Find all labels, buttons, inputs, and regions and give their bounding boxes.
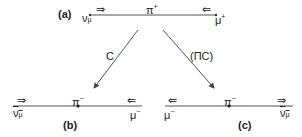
pion-charge: − — [232, 95, 236, 102]
muon-charge: − — [170, 108, 174, 115]
antineutrino-label-c: νμ — [280, 108, 290, 119]
neutrino-subscript: μ — [286, 111, 290, 118]
diagram-lines — [0, 0, 302, 137]
antineutrino-label-b: νμ — [13, 108, 23, 119]
pion-minus-label-b: π− — [72, 95, 84, 108]
spin-arrow-right-b: ⇒ — [17, 95, 26, 106]
neutrino-subscript: μ — [88, 16, 92, 23]
pion-symbol: π — [146, 4, 154, 16]
pc-transform-label: (ΠC) — [190, 51, 213, 62]
pion-minus-label-c: π− — [224, 95, 236, 108]
spin-arrow-left-c: ⇐ — [168, 95, 177, 106]
c-transform-arrow — [94, 30, 138, 88]
c-transform-label: C — [106, 51, 114, 62]
muon-charge: − — [136, 108, 140, 115]
spin-arrow-left-a: ⇐ — [202, 4, 211, 15]
panel-b-label: (b) — [63, 120, 77, 131]
muon-minus-label-c: μ− — [164, 108, 174, 121]
pion-symbol: π — [224, 96, 232, 108]
pion-charge: − — [80, 95, 84, 102]
panel-c-label: (c) — [238, 120, 251, 131]
spin-arrow-right-c: ⇒ — [277, 95, 286, 106]
muon-plus-label: μ+ — [215, 13, 225, 26]
muon-charge: + — [221, 13, 225, 20]
spin-arrow-right-a: ⇒ — [96, 4, 105, 15]
neutrino-subscript: μ — [19, 111, 23, 118]
neutrino-label-a: νμ — [82, 13, 92, 24]
muon-minus-label-b: μ− — [130, 108, 140, 121]
pion-symbol: π — [72, 96, 80, 108]
panel-a-label: (a) — [58, 9, 71, 20]
spin-arrow-left-b: ⇐ — [127, 95, 136, 106]
pion-charge: + — [154, 3, 158, 10]
pion-plus-label: π+ — [146, 3, 158, 16]
